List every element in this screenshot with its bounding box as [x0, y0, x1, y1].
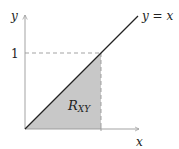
- line-label: y = x: [141, 9, 173, 23]
- line-label-rhs: x: [166, 9, 173, 23]
- y-axis-label: y: [10, 9, 18, 23]
- region-label-main: R: [67, 98, 78, 113]
- tick-y-label: 1: [11, 47, 19, 61]
- region-label-sub: XY: [77, 104, 91, 114]
- diagram-canvas: y 1 x y = x RXY: [0, 0, 179, 149]
- x-axis-label: x: [136, 135, 143, 149]
- line-label-eq: =: [149, 9, 167, 23]
